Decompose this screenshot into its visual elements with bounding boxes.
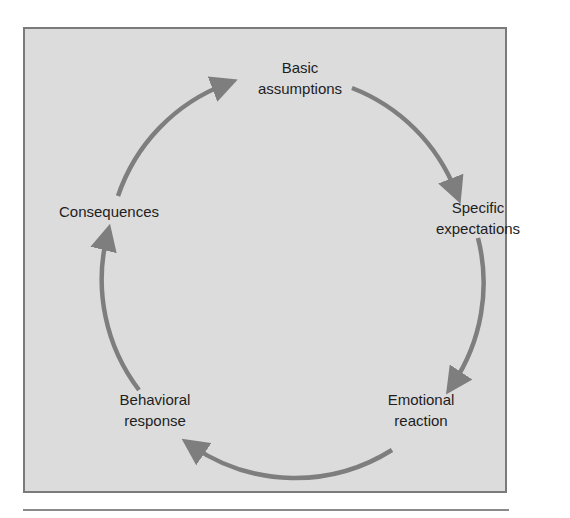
node-label-line: Consequences: [44, 201, 174, 222]
node-label-line: reaction: [366, 410, 476, 431]
node-basic-assumptions: Basic assumptions: [240, 57, 360, 99]
node-label-line: Basic: [240, 57, 360, 78]
node-consequences: Consequences: [44, 201, 174, 222]
node-label-line: response: [100, 410, 210, 431]
arrow-behavioral-to-consequences-icon: [102, 236, 139, 390]
node-label-line: expectations: [418, 218, 538, 239]
arrow-specific-to-emotional-icon: [453, 238, 484, 384]
node-label-line: assumptions: [240, 78, 360, 99]
node-behavioral-response: Behavioral response: [100, 389, 210, 431]
node-label-line: Emotional: [366, 389, 476, 410]
arrow-basic-to-specific-icon: [352, 88, 456, 192]
bottom-separator: [23, 509, 509, 511]
node-label-line: Specific: [418, 197, 538, 218]
arrow-consequences-to-basic-icon: [118, 84, 226, 196]
node-label-line: Behavioral: [100, 389, 210, 410]
arrow-emotional-to-behavioral-icon: [192, 446, 392, 478]
node-specific-expectations: Specific expectations: [418, 197, 538, 239]
node-emotional-reaction: Emotional reaction: [366, 389, 476, 431]
